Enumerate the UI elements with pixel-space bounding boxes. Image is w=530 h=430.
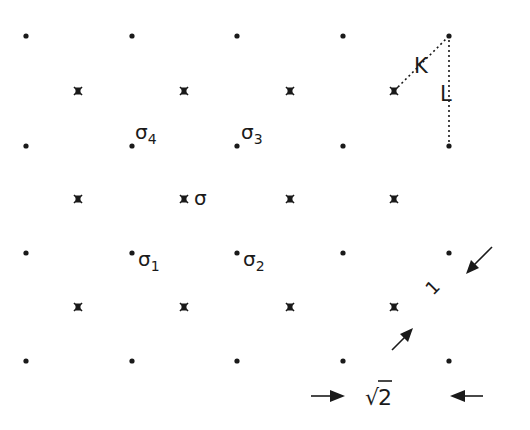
lattice-cross [286,303,294,311]
lattice-dot [234,143,239,148]
lattice-cross [180,87,188,95]
lattice-dot [129,143,134,148]
lattice-dot [446,250,451,255]
label-sigma4: σ4 [135,120,157,147]
lattice-diagram: K L σ4 σ3 σ σ1 σ2 1 √ 2 [0,0,530,430]
lattice-dot [23,143,28,148]
lattice-cross [390,195,398,203]
arrow-horizontal-right [450,390,483,402]
lattice-dot [340,33,345,38]
lattice-dot [446,33,451,38]
lattice-dot [234,358,239,363]
lattice-dot [23,358,28,363]
lattice-dot [234,33,239,38]
lattice-dot [129,358,134,363]
lattice-cross [180,195,188,203]
lattice-cross [180,303,188,311]
lattice-dot [23,250,28,255]
arrow-diagonal-top [466,247,492,274]
lattice-dot [340,250,345,255]
lattice-dot [340,358,345,363]
label-l: L [440,82,452,106]
label-sigma: σ [194,186,207,210]
arrow-horizontal-left [311,390,345,402]
lattice-dot [340,143,345,148]
lattice-cross [286,87,294,95]
lattice-crosses [74,87,398,311]
lattice-dots [23,33,451,363]
lattice-cross [390,87,398,95]
lattice-dot [129,250,134,255]
label-sigma1: σ1 [138,247,160,274]
label-sigma2: σ2 [243,247,265,274]
lattice-cross [286,195,294,203]
lattice-dot [446,143,451,148]
label-sqrt-two: √ 2 [365,381,392,410]
lattice-dot [129,33,134,38]
lattice-cross [74,87,82,95]
arrow-diagonal-bottom [392,328,413,350]
lattice-dot [23,33,28,38]
lattice-cross [74,303,82,311]
lattice-dot [234,250,239,255]
lattice-cross [390,303,398,311]
label-k: K [414,54,429,78]
svg-text:2: 2 [378,385,392,410]
label-one: 1 [421,276,444,299]
lattice-cross [74,195,82,203]
lattice-dot [446,358,451,363]
label-sigma3: σ3 [241,120,263,147]
